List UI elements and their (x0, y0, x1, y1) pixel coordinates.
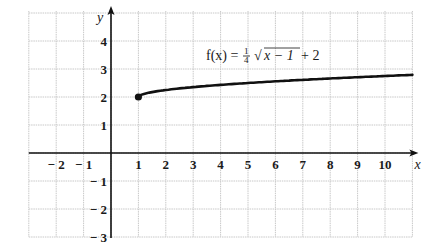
x-tick-label: 6 (272, 157, 279, 172)
formula-lhs: f(x) = (206, 48, 238, 64)
function-formula: f(x) = 1 4 √ x − 1 + 2 (206, 46, 319, 65)
y-tick-label: 4 (101, 34, 108, 49)
y-tick-label: 2 (101, 90, 108, 105)
start-point-dot-icon (135, 93, 142, 100)
x-tick-label: 9 (354, 157, 361, 172)
function-graph: − 2− 1123456789104321− 1− 2− 3 x y f(x) … (0, 0, 427, 250)
y-tick-label: 1 (101, 118, 108, 133)
x-tick-label: 3 (190, 157, 197, 172)
x-tick-label: − 1 (75, 157, 92, 172)
x-tick-label: 4 (217, 157, 224, 172)
x-tick-label: 10 (379, 157, 392, 172)
y-tick-label: − 3 (90, 230, 108, 245)
x-tick-label: 2 (163, 157, 170, 172)
grid-lines (29, 11, 413, 237)
y-tick-label: 3 (101, 62, 108, 77)
tick-labels: − 2− 1123456789104321− 1− 2− 3 (48, 34, 392, 245)
x-tick-label: 5 (245, 157, 252, 172)
x-axis-label: x (413, 157, 421, 172)
formula-fraction-denominator: 4 (244, 55, 249, 65)
y-tick-label: − 1 (90, 174, 107, 189)
y-tick-label: − 2 (90, 202, 107, 217)
x-tick-label: 8 (327, 157, 334, 172)
radical-sign-icon: √ (254, 48, 262, 63)
formula-radicand: x − 1 (263, 48, 294, 63)
x-tick-label: 1 (135, 157, 142, 172)
x-tick-label: − 2 (48, 157, 65, 172)
y-axis-label: y (95, 10, 104, 25)
x-tick-label: 7 (300, 157, 307, 172)
formula-constant: + 2 (301, 48, 319, 63)
